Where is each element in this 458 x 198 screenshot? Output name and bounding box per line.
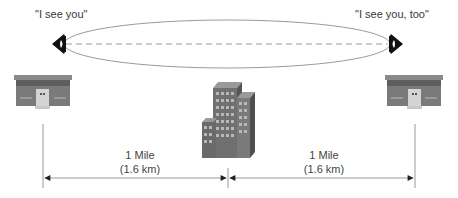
distance-label-right: 1 Mile (1.6 km) — [284, 148, 364, 176]
small-house-icon — [385, 75, 443, 109]
distance-km: (1.6 km) — [100, 162, 180, 176]
left-observer-quote: "I see you" — [35, 8, 87, 20]
distance-label-left: 1 Mile (1.6 km) — [100, 148, 180, 176]
eye-icon — [52, 34, 66, 54]
distance-miles: 1 Mile — [100, 148, 180, 162]
right-observer-quote: "I see you, too" — [355, 8, 429, 20]
small-house-icon — [14, 75, 72, 109]
eye-icon — [389, 34, 403, 54]
office-tower-icon — [202, 82, 255, 158]
distance-miles: 1 Mile — [284, 148, 364, 162]
line-of-sight-diagram — [0, 0, 458, 198]
distance-km: (1.6 km) — [284, 162, 364, 176]
